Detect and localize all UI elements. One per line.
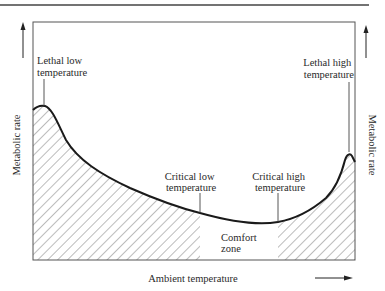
critical-high-label: Critical high temperature — [252, 171, 307, 193]
metabolic-rate-diagram: Metabolic rate Metabolic rate Ambient te… — [0, 0, 385, 291]
critical-low-label: Critical low temperature — [165, 171, 218, 193]
y-axis-arrow-right-icon — [364, 25, 369, 58]
x-axis-label: Ambient temperature — [148, 273, 238, 284]
y-axis-label-right: Metabolic rate — [367, 115, 378, 176]
x-axis-arrow-icon — [315, 276, 353, 281]
lethal-high-label: Lethal high temperature — [303, 57, 354, 80]
y-axis-label-left: Metabolic rate — [11, 114, 22, 175]
comfort-zone-label: Comfort zone — [221, 232, 259, 254]
y-axis-arrow-left-icon — [21, 22, 26, 58]
lethal-low-label: Lethal low temperature — [37, 55, 87, 78]
